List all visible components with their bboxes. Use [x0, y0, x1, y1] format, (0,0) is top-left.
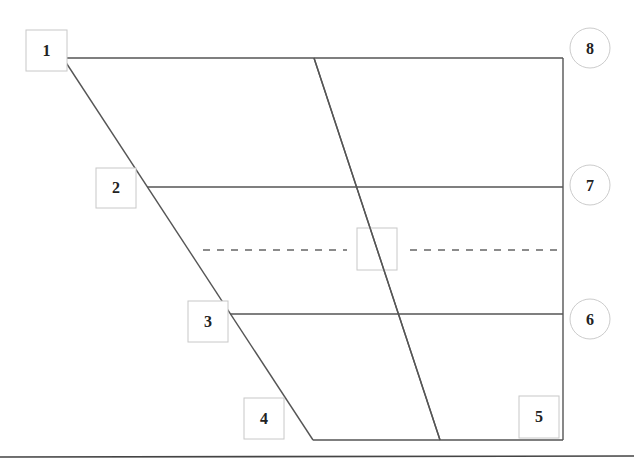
label-8-text: 8	[586, 40, 594, 57]
label-4-text: 4	[260, 410, 268, 427]
label-box-3: 3	[188, 301, 228, 342]
label-circle-8: 8	[570, 28, 610, 68]
label-box-1: 1	[26, 30, 67, 71]
label-box-5: 5	[519, 396, 559, 438]
label-6-text: 6	[586, 311, 594, 328]
label-2-text: 2	[112, 179, 120, 196]
label-7-text: 7	[586, 177, 594, 194]
left-slanted-edge	[63, 58, 313, 440]
label-circle-7: 7	[570, 165, 610, 205]
central-slanted-divider-overlay	[314, 58, 440, 440]
vowel-diagram: 1 2 3 4 5 8 7 6	[0, 0, 634, 466]
label-box-2: 2	[96, 168, 136, 208]
label-1-text: 1	[43, 42, 51, 59]
bottom-rule	[0, 456, 634, 457]
label-5-text: 5	[535, 408, 543, 425]
label-circle-6: 6	[570, 299, 610, 339]
label-box-4: 4	[244, 398, 284, 439]
label-3-text: 3	[204, 313, 212, 330]
